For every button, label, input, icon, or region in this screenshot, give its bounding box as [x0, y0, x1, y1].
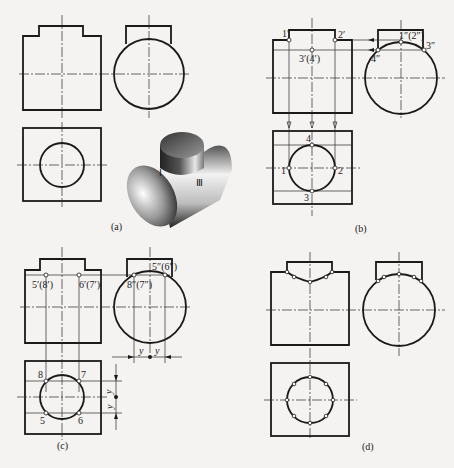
- caption-d: (d): [362, 441, 374, 453]
- label-87-side: 8″(7″): [127, 279, 152, 291]
- top-view-d: [264, 363, 357, 436]
- side-view-b: 1″(2″) 3″ 4″: [352, 20, 437, 118]
- front-view-b: 1′ 2′ 3′(4′): [266, 18, 445, 216]
- side-view-c: 5″(6″) 8″(7″) y y: [112, 247, 186, 363]
- panel-c: 5′(8′) 6′(7′) 5″(6″) 8″(7″) y y: [17, 247, 192, 452]
- label-56-side: 5″(6″): [152, 261, 177, 273]
- caption-a: (a): [111, 221, 122, 233]
- label-3-top: 3: [304, 192, 309, 203]
- dim-y-bottom: y: [104, 404, 115, 410]
- roman-label-III: Ⅲ: [196, 177, 203, 188]
- intersection-line-drawing: Ⅰ Ⅲ (a) 1′ 2′ 3′(4′): [0, 0, 454, 468]
- label-5-top: 5: [40, 415, 45, 426]
- label-58-front: 5′(8′): [32, 279, 53, 291]
- roman-label-I: Ⅰ: [159, 167, 162, 178]
- label-67-front: 6′(7′): [79, 279, 100, 291]
- label-4-top: 4: [306, 133, 311, 144]
- top-view-c: 8 7 5 6 y y: [17, 361, 122, 434]
- caption-b: (b): [355, 223, 367, 235]
- label-3-side: 3″: [426, 40, 435, 51]
- isometric-tee-pipe: Ⅰ Ⅲ: [116, 132, 232, 236]
- dim-y-right: y: [154, 345, 160, 356]
- label-2-front: 2′: [338, 29, 345, 40]
- front-view-a: [19, 15, 190, 118]
- panel-b: 1′ 2′ 3′(4′) 1″(2″) 3″ 4″: [266, 18, 445, 235]
- label-2-top: 2: [338, 165, 343, 176]
- label-1-top: 1: [281, 165, 286, 176]
- label-7-top: 7: [81, 369, 86, 380]
- top-view-a: [17, 122, 109, 207]
- label-6-top: 6: [78, 415, 83, 426]
- top-view-b: 1 2 3 4: [266, 131, 360, 204]
- panel-a: Ⅰ Ⅲ (a): [17, 15, 232, 236]
- label-4-side: 4″: [371, 53, 380, 64]
- panel-d: (d): [264, 252, 445, 453]
- side-view-a: [114, 15, 184, 118]
- label-1-front: 1′: [282, 28, 289, 39]
- label-34-front: 3′(4′): [299, 53, 320, 65]
- caption-c: (c): [57, 440, 68, 452]
- dim-y-top: y: [103, 389, 114, 395]
- side-view-d: [363, 252, 435, 356]
- label-8-top: 8: [38, 369, 43, 380]
- label-12-side: 1″(2″): [399, 30, 424, 42]
- dim-y-left: y: [138, 345, 144, 356]
